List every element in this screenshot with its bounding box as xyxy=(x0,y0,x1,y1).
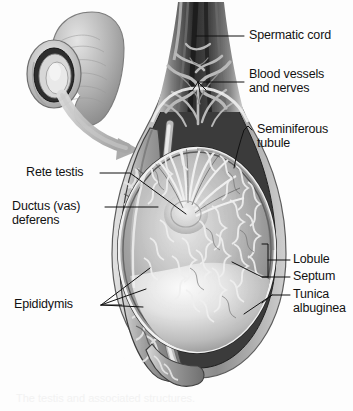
label-ductus-deferens-line1: Ductus (vas) xyxy=(12,200,80,214)
label-rete-testis: Rete testis xyxy=(26,166,83,180)
label-lobule: Lobule xyxy=(293,253,330,267)
label-ductus-deferens-line2: deferens xyxy=(12,214,59,228)
anatomy-figure-page: Spermatic cord Blood vessels and nerves … xyxy=(0,0,353,411)
label-seminiferous-line2: tubule xyxy=(257,137,290,151)
label-tunica-albuginea-line2: albuginea xyxy=(293,302,346,316)
label-tunica-albuginea-line1: Tunica xyxy=(293,288,329,302)
label-septum: Septum xyxy=(293,270,335,284)
label-seminiferous-line1: Seminiferous xyxy=(257,123,328,137)
label-blood-vessels-line2: and nerves xyxy=(249,82,309,96)
label-epididymis: Epididymis xyxy=(14,298,73,312)
figure-caption: The testis and associated structures. xyxy=(16,392,195,404)
orientation-inset-drawing xyxy=(27,12,140,160)
label-blood-vessels-line1: Blood vessels xyxy=(249,68,324,82)
label-spermatic-cord: Spermatic cord xyxy=(249,29,331,43)
